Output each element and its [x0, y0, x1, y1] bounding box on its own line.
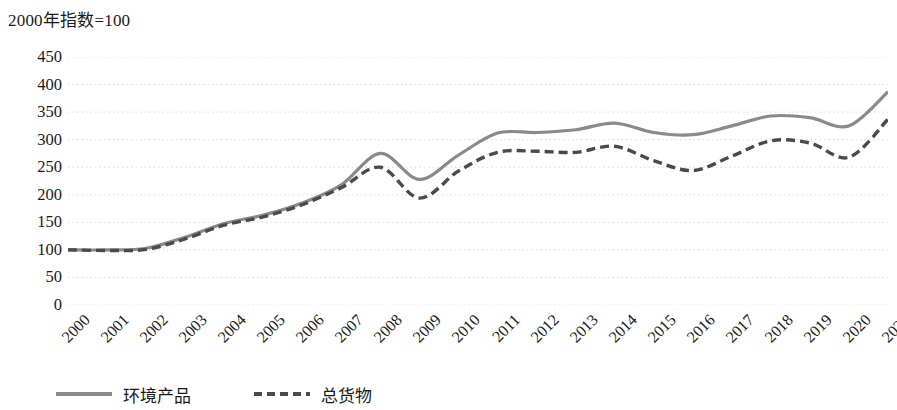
y-axis-tick-label: 150	[4, 212, 62, 232]
y-axis-tick-label: 400	[4, 75, 62, 95]
legend-item-1[interactable]: 环境产品	[55, 382, 191, 407]
y-axis-tick-label: 50	[4, 267, 62, 287]
x-axis-tick-label: 2016	[683, 311, 718, 346]
plot-area	[68, 57, 888, 305]
series-line-1	[68, 92, 888, 250]
x-axis: 2000200120022003200420052006200720082009…	[68, 307, 888, 367]
y-axis-tick-label: 200	[4, 185, 62, 205]
legend-item-2[interactable]: 总货物	[253, 382, 372, 407]
x-axis-tick-label: 2003	[176, 311, 211, 346]
x-axis-tick-label: 2004	[215, 311, 250, 346]
legend-swatch-dashed	[253, 387, 311, 401]
x-axis-tick-label: 2012	[527, 311, 562, 346]
chart-legend: 环境产品总货物	[0, 378, 897, 410]
y-axis-tick-label: 350	[4, 102, 62, 122]
chart-container: 2000年指数=100 450400350300250200150100500 …	[0, 0, 897, 410]
legend-label: 环境产品	[123, 382, 191, 407]
x-axis-tick-label: 2014	[605, 311, 640, 346]
series-line-2	[68, 119, 888, 250]
y-axis-tick-label: 300	[4, 130, 62, 150]
x-axis-tick-label: 2005	[254, 311, 289, 346]
y-axis: 450400350300250200150100500	[0, 0, 62, 410]
y-axis-tick-label: 100	[4, 240, 62, 260]
x-axis-tick-label: 2009	[410, 311, 445, 346]
x-axis-tick-label: 2021	[878, 311, 897, 346]
x-axis-tick-label: 2001	[97, 311, 132, 346]
x-axis-tick-label: 2002	[136, 311, 171, 346]
x-axis-tick-label: 2007	[332, 311, 367, 346]
x-axis-tick-label: 2019	[800, 311, 835, 346]
x-axis-tick-label: 2020	[839, 311, 874, 346]
line-chart-svg	[68, 57, 888, 305]
y-axis-tick-label: 0	[4, 295, 62, 315]
gridlines	[68, 57, 888, 305]
legend-label: 总货物	[321, 382, 372, 407]
x-axis-tick-label: 2015	[644, 311, 679, 346]
x-axis-tick-label: 2011	[488, 311, 523, 346]
x-axis-tick-label: 2008	[371, 311, 406, 346]
legend-swatch-solid	[55, 387, 113, 401]
x-axis-tick-label: 2006	[293, 311, 328, 346]
x-axis-tick-label: 2010	[449, 311, 484, 346]
x-axis-tick-label: 2013	[566, 311, 601, 346]
x-axis-tick-label: 2017	[722, 311, 757, 346]
y-axis-tick-label: 450	[4, 47, 62, 67]
x-axis-tick-label: 2018	[761, 311, 796, 346]
y-axis-tick-label: 250	[4, 157, 62, 177]
x-axis-tick-label: 2000	[58, 311, 93, 346]
